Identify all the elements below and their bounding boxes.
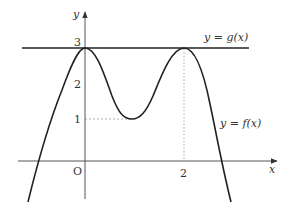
curve-g-label: y = g(x): [203, 31, 248, 44]
y-tick-label-3: 3: [74, 36, 81, 49]
x-axis-label: x: [269, 163, 276, 176]
origin-label: O: [73, 165, 82, 178]
function-graph: y x O 3 2 1 2 y = g(x) y = f(x): [0, 0, 292, 217]
y-tick-label-2: 2: [74, 78, 81, 91]
curve-f-label: y = f(x): [219, 117, 261, 130]
curve-f: [28, 48, 231, 202]
x-tick-label-2: 2: [180, 167, 187, 180]
y-axis-label: y: [72, 8, 80, 21]
y-tick-label-1: 1: [74, 113, 81, 126]
